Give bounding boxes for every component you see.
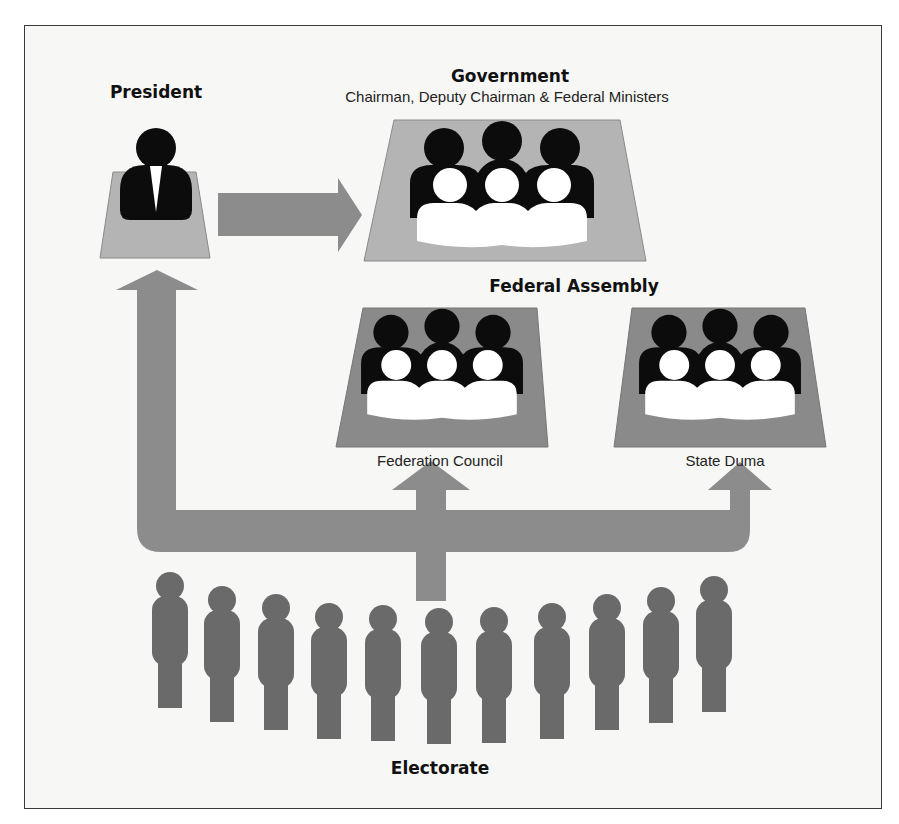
state-duma-node <box>614 308 826 447</box>
state-duma-members-icon <box>639 309 801 420</box>
federation-council-label: Federation Council <box>377 452 503 469</box>
federal-assembly-label: Federal Assembly <box>489 276 658 296</box>
voter-icon <box>589 594 625 730</box>
federation-council-members-icon <box>361 309 523 420</box>
voter-icon <box>311 603 347 739</box>
voter-icon <box>696 576 732 712</box>
voter-icon <box>204 586 240 722</box>
diagram-canvas <box>0 0 899 824</box>
president-person-icon <box>120 128 192 220</box>
president-label: President <box>110 82 202 102</box>
government-label: Government <box>451 66 569 86</box>
electorate-label: Electorate <box>391 758 489 778</box>
government-sublabel: Chairman, Deputy Chairman & Federal Mini… <box>345 88 668 105</box>
voter-icon <box>643 587 679 723</box>
voter-icon <box>421 608 457 744</box>
voter-icon <box>534 603 570 739</box>
government-members-icon <box>410 121 594 247</box>
government-node <box>364 120 646 261</box>
state-duma-label: State Duma <box>685 452 764 469</box>
federation-council-node <box>336 308 548 447</box>
voter-icon <box>476 607 512 743</box>
voter-icon <box>152 572 188 708</box>
voter-icon <box>258 594 294 730</box>
president-node <box>100 128 210 258</box>
president-to-government-arrow <box>218 178 362 252</box>
voter-icon <box>365 605 401 741</box>
